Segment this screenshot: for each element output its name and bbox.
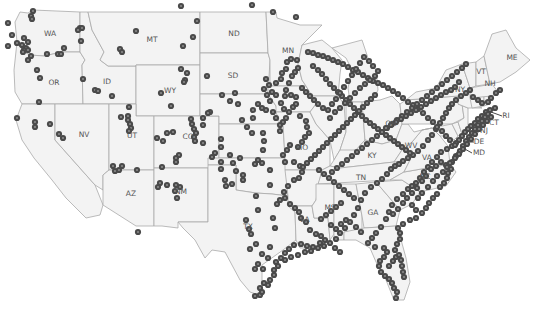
location-marker[interactable] <box>497 87 503 93</box>
location-marker[interactable] <box>270 215 276 221</box>
location-marker[interactable] <box>424 93 430 99</box>
location-marker[interactable] <box>467 87 473 93</box>
location-marker[interactable] <box>284 59 290 65</box>
location-marker[interactable] <box>270 109 276 115</box>
location-marker[interactable] <box>230 160 236 166</box>
location-marker[interactable] <box>126 104 132 110</box>
location-marker[interactable] <box>209 154 215 160</box>
location-marker[interactable] <box>244 124 250 130</box>
location-marker[interactable] <box>184 70 190 76</box>
location-marker[interactable] <box>282 93 288 99</box>
location-marker[interactable] <box>287 201 293 207</box>
location-marker[interactable] <box>260 266 266 272</box>
location-marker[interactable] <box>362 190 368 196</box>
location-marker[interactable] <box>333 96 339 102</box>
location-marker[interactable] <box>223 183 229 189</box>
location-marker[interactable] <box>419 210 425 216</box>
location-marker[interactable] <box>438 159 444 165</box>
location-marker[interactable] <box>358 197 364 203</box>
location-marker[interactable] <box>347 95 353 101</box>
location-marker[interactable] <box>25 57 31 63</box>
location-marker[interactable] <box>260 130 266 136</box>
location-marker[interactable] <box>293 101 299 107</box>
location-marker[interactable] <box>304 124 310 130</box>
location-marker[interactable] <box>443 133 449 139</box>
location-marker[interactable] <box>338 200 344 206</box>
location-marker[interactable] <box>278 76 284 82</box>
location-marker[interactable] <box>376 263 382 269</box>
location-marker[interactable] <box>267 182 273 188</box>
location-marker[interactable] <box>222 177 228 183</box>
location-marker[interactable] <box>399 263 405 269</box>
location-marker[interactable] <box>429 89 435 95</box>
location-marker[interactable] <box>407 150 413 156</box>
location-marker[interactable] <box>252 293 258 299</box>
location-marker[interactable] <box>401 274 407 280</box>
location-marker[interactable] <box>282 195 288 201</box>
location-marker[interactable] <box>364 141 370 147</box>
location-marker[interactable] <box>232 90 238 96</box>
location-marker[interactable] <box>344 157 350 163</box>
state-mt[interactable] <box>88 12 200 66</box>
location-marker[interactable] <box>425 184 431 190</box>
location-marker[interactable] <box>253 241 259 247</box>
location-marker[interactable] <box>425 137 431 143</box>
location-marker[interactable] <box>352 90 358 96</box>
location-marker[interactable] <box>327 115 333 121</box>
location-marker[interactable] <box>357 85 363 91</box>
location-marker[interactable] <box>267 98 273 104</box>
location-marker[interactable] <box>32 124 38 130</box>
location-marker[interactable] <box>255 207 261 213</box>
location-marker[interactable] <box>267 167 273 173</box>
location-marker[interactable] <box>383 216 389 222</box>
location-marker[interactable] <box>200 122 206 128</box>
location-marker[interactable] <box>395 206 401 212</box>
location-marker[interactable] <box>281 106 287 112</box>
location-marker[interactable] <box>47 121 53 127</box>
location-marker[interactable] <box>109 93 115 99</box>
location-marker[interactable] <box>135 229 141 235</box>
location-marker[interactable] <box>413 215 419 221</box>
location-marker[interactable] <box>247 246 253 252</box>
location-marker[interactable] <box>337 90 343 96</box>
location-marker[interactable] <box>263 107 269 113</box>
location-marker[interactable] <box>354 149 360 155</box>
location-marker[interactable] <box>420 143 426 149</box>
location-marker[interactable] <box>434 191 440 197</box>
location-marker[interactable] <box>359 145 365 151</box>
location-marker[interactable] <box>119 163 125 169</box>
location-marker[interactable] <box>327 240 333 246</box>
location-marker[interactable] <box>409 202 415 208</box>
location-marker[interactable] <box>365 240 371 246</box>
location-marker[interactable] <box>337 105 343 111</box>
location-marker[interactable] <box>233 168 239 174</box>
location-marker[interactable] <box>439 81 445 87</box>
location-marker[interactable] <box>366 58 372 64</box>
location-marker[interactable] <box>29 16 35 22</box>
location-marker[interactable] <box>200 115 206 121</box>
location-marker[interactable] <box>434 173 440 179</box>
location-marker[interactable] <box>341 187 347 193</box>
location-marker[interactable] <box>407 217 413 223</box>
location-marker[interactable] <box>295 65 301 71</box>
location-marker[interactable] <box>323 76 329 82</box>
location-marker[interactable] <box>345 78 351 84</box>
location-marker[interactable] <box>351 195 357 201</box>
location-marker[interactable] <box>291 177 297 183</box>
location-marker[interactable] <box>19 42 25 48</box>
location-marker[interactable] <box>323 212 329 218</box>
location-marker[interactable] <box>164 130 170 136</box>
location-marker[interactable] <box>293 14 299 20</box>
location-marker[interactable] <box>379 176 385 182</box>
location-marker[interactable] <box>281 189 287 195</box>
location-marker[interactable] <box>321 171 327 177</box>
location-marker[interactable] <box>357 60 363 66</box>
location-marker[interactable] <box>393 295 399 301</box>
location-marker[interactable] <box>34 67 40 73</box>
location-marker[interactable] <box>218 136 224 142</box>
location-marker[interactable] <box>118 114 124 120</box>
location-marker[interactable] <box>278 100 284 106</box>
location-marker[interactable] <box>279 70 285 76</box>
location-marker[interactable] <box>328 222 334 228</box>
location-marker[interactable] <box>326 175 332 181</box>
